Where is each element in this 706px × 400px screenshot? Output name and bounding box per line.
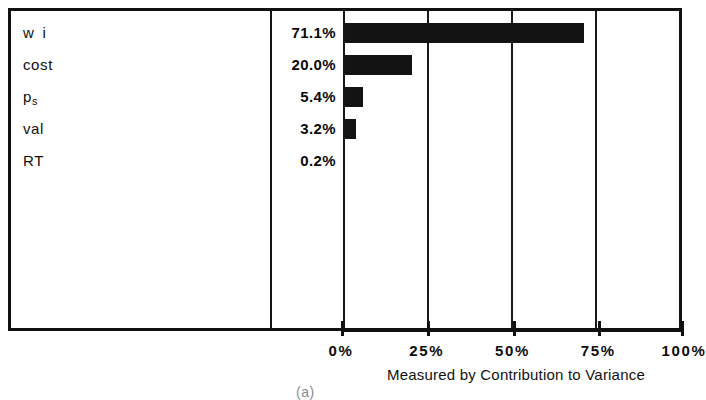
chart-frame: w i71.1%cost20.0%ps5.4%val3.2%RT0.2% xyxy=(8,8,682,331)
x-axis-caption: Measured by Contribution to Variance xyxy=(341,366,691,383)
row-value-label: 71.1% xyxy=(270,17,336,49)
x-tick-25 xyxy=(427,321,430,336)
table-row: ps5.4% xyxy=(11,81,679,113)
row-value-label: 0.2% xyxy=(270,145,336,177)
bar-track xyxy=(343,113,679,145)
table-row: w i71.1% xyxy=(11,17,679,49)
row-value-label: 5.4% xyxy=(270,81,336,113)
figure-tag: (a) xyxy=(296,384,315,400)
row-label-subscript: s xyxy=(32,95,38,107)
table-row: cost20.0% xyxy=(11,49,679,81)
bar-track xyxy=(343,17,679,49)
x-tick-label: 100% xyxy=(662,342,706,359)
table-row: RT0.2% xyxy=(11,145,679,177)
row-value-label: 3.2% xyxy=(270,113,336,145)
bar-rows: w i71.1%cost20.0%ps5.4%val3.2%RT0.2% xyxy=(11,11,679,328)
bar-track xyxy=(343,145,679,177)
x-tick-label: 75% xyxy=(581,342,616,359)
bar xyxy=(345,23,584,43)
x-tick-label: 25% xyxy=(409,342,444,359)
x-tick-50 xyxy=(513,321,516,336)
row-label: w i xyxy=(23,17,48,49)
row-label: RT xyxy=(23,145,44,177)
x-tick-75 xyxy=(598,321,601,336)
x-tick-label: 0% xyxy=(329,342,354,359)
row-label: ps xyxy=(23,81,37,113)
row-label: val xyxy=(23,113,44,145)
x-tick-label: 50% xyxy=(495,342,530,359)
bar-track xyxy=(343,81,679,113)
bar xyxy=(345,87,363,107)
table-row: val3.2% xyxy=(11,113,679,145)
bar xyxy=(345,55,412,75)
row-label: cost xyxy=(23,49,53,81)
x-axis xyxy=(341,328,684,332)
bar xyxy=(345,119,356,139)
x-tick-100 xyxy=(681,321,684,336)
row-value-label: 20.0% xyxy=(270,49,336,81)
x-tick-0 xyxy=(341,321,344,336)
bar-track xyxy=(343,49,679,81)
